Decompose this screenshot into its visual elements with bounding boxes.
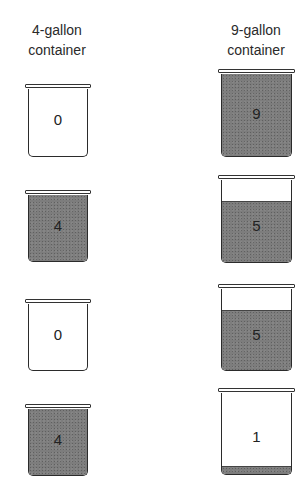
amount-label: 5 [222,217,291,234]
step2-4-gallon-container: 4 [25,190,91,262]
step4-4-gallon-container: 4 [25,404,91,476]
header-4-gallon: 4-gallon container [2,20,112,60]
lid [25,84,91,88]
amount-label: 1 [222,428,291,445]
step3-4-gallon-container: 0 [25,299,91,371]
step4-9-gallon-container: 1 [218,388,295,475]
lid [25,404,91,408]
container-body: 5 [221,180,292,263]
amount-label: 5 [222,326,291,343]
step1-4-gallon-container: 0 [25,84,91,157]
amount-label: 9 [222,105,291,122]
header-4-gallon-line1: 4-gallon [2,20,112,40]
lid [25,299,91,303]
lid [218,388,295,392]
lid [218,69,295,73]
amount-label: 0 [29,111,87,128]
amount-label: 4 [29,431,87,448]
container-body: 5 [221,289,292,371]
step3-9-gallon-container: 5 [218,284,295,371]
container-body: 1 [221,393,292,475]
header-9-gallon-line2: container [201,40,304,60]
amount-label: 4 [29,217,87,234]
container-body: 0 [28,89,88,157]
lid [218,284,295,288]
water-fill [222,466,291,474]
lid [25,190,91,194]
lid [218,175,295,179]
header-4-gallon-line2: container [2,40,112,60]
container-body: 4 [28,409,88,476]
container-body: 0 [28,304,88,371]
header-9-gallon-line1: 9-gallon [201,20,304,40]
step1-9-gallon-container: 9 [218,69,295,157]
amount-label: 0 [29,326,87,343]
container-body: 4 [28,195,88,262]
header-9-gallon: 9-gallon container [201,20,304,60]
step2-9-gallon-container: 5 [218,175,295,263]
container-body: 9 [221,74,292,157]
